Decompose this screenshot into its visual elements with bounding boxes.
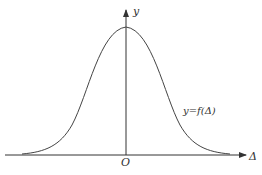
normal-curve-diagram: y Δ O y=f(Δ) [0, 0, 262, 175]
x-axis-label: Δ [248, 150, 257, 163]
origin-label: O [121, 156, 130, 169]
curve-label: y=f(Δ) [182, 105, 216, 116]
y-axis-label: y [132, 5, 140, 18]
